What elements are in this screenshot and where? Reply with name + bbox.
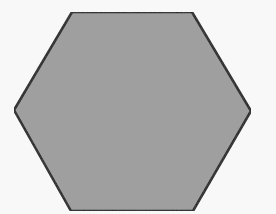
diagram-canvas <box>0 0 276 214</box>
hexagon-shape <box>14 12 251 211</box>
hexagon-diagram <box>0 0 276 214</box>
